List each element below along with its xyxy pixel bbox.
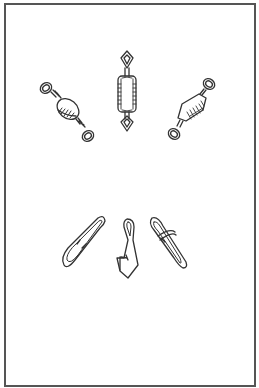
tackle-illustration — [0, 0, 259, 388]
snap-hooked-icon — [63, 217, 105, 267]
swivel-center-icon — [118, 51, 136, 131]
swivel-right-icon — [166, 76, 217, 141]
snap-coastlock-icon — [150, 218, 186, 268]
swivel-left-icon — [38, 80, 96, 143]
snap-duolock-icon — [117, 219, 138, 278]
